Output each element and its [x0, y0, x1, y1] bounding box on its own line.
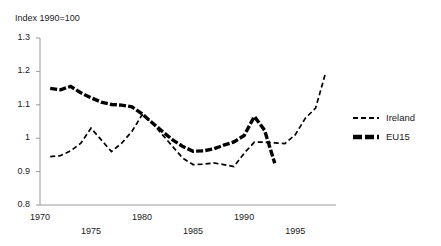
x-tick-label: 1980: [125, 212, 159, 222]
y-tick-label: 1.1: [4, 99, 30, 109]
y-tick-label: 1.2: [4, 65, 30, 75]
axis-lines: [40, 38, 336, 205]
x-tick-label: 1975: [74, 226, 108, 236]
y-tick-label: 0.8: [4, 199, 30, 209]
series-line-eu15: [50, 86, 275, 163]
legend-item-ireland[interactable]: Ireland: [352, 108, 440, 127]
legend-swatch-eu15-icon: [352, 131, 380, 143]
y-tick-marks: [36, 38, 40, 205]
chart-legend: Ireland EU15: [352, 108, 440, 146]
series-layer: [50, 72, 326, 167]
x-tick-label: 1990: [227, 212, 261, 222]
series-line-ireland: [50, 72, 326, 167]
y-tick-label: 0.9: [4, 166, 30, 176]
chart-figure: Index 1990=100 1.31.21.110.90.8 19701980…: [0, 0, 441, 246]
x-tick-label: 1985: [176, 226, 210, 236]
legend-swatch-ireland-icon: [352, 112, 380, 124]
x-tick-label: 1995: [278, 226, 312, 236]
y-tick-label: 1.3: [4, 32, 30, 42]
x-tick-label: 1970: [23, 212, 57, 222]
y-tick-label: 1: [4, 132, 30, 142]
legend-label-eu15: EU15: [386, 131, 410, 142]
legend-label-ireland: Ireland: [386, 112, 415, 123]
legend-item-eu15[interactable]: EU15: [352, 127, 440, 146]
